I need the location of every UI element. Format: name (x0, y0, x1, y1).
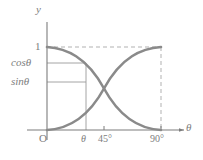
x-tick-label-theta: θ (81, 134, 86, 144)
x-tick-label-90: 90° (150, 134, 164, 144)
origin-label: O (39, 133, 47, 144)
x-axis-arrowhead (179, 128, 184, 132)
x-tick-label-45: 45° (98, 134, 112, 144)
y-axis-label: y (36, 4, 41, 15)
x-axis-label: θ (186, 122, 191, 133)
y-tick-label-cos: cosθ (11, 57, 31, 68)
y-tick-label-one: 1 (35, 41, 41, 52)
trig-function-figure: y θ 1 cosθ sinθ O θ 45° 90° (0, 0, 203, 160)
y-tick-label-sin: sinθ (11, 76, 29, 87)
sin-curve (47, 47, 161, 130)
